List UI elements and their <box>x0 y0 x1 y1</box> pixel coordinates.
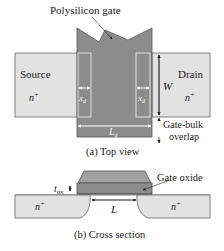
top-view-caption: (a) Top view <box>86 146 140 158</box>
mosfet-diagram: Polysilicon gate Source n+ Drain n+ W xd… <box>0 0 224 251</box>
cross-section-caption: (b) Cross section <box>74 229 146 241</box>
top-view: Polysilicon gate Source n+ Drain n+ W xd… <box>15 4 210 158</box>
width-label: W <box>163 80 173 92</box>
source-region <box>15 53 77 117</box>
gate-front-face <box>77 183 152 194</box>
cross-section: Gate oxide tox L n+ n+ (b) Cross section <box>15 171 210 241</box>
gate-top-face <box>78 171 151 183</box>
drain-label: Drain <box>178 68 204 80</box>
gate-oxide-label: Gate oxide <box>157 172 203 183</box>
gate-bulk-label-2: overlap <box>169 131 199 142</box>
tox-label: tox <box>54 183 64 196</box>
drain-region <box>152 53 210 117</box>
channel-length-label: L <box>110 203 117 215</box>
gate-bulk-label-1: Gate-bulk <box>163 119 203 130</box>
left-diffusion <box>15 195 90 218</box>
source-label: Source <box>20 68 51 80</box>
polysilicon-gate-label: Polysilicon gate <box>50 4 121 16</box>
polysilicon-gate <box>77 28 152 137</box>
